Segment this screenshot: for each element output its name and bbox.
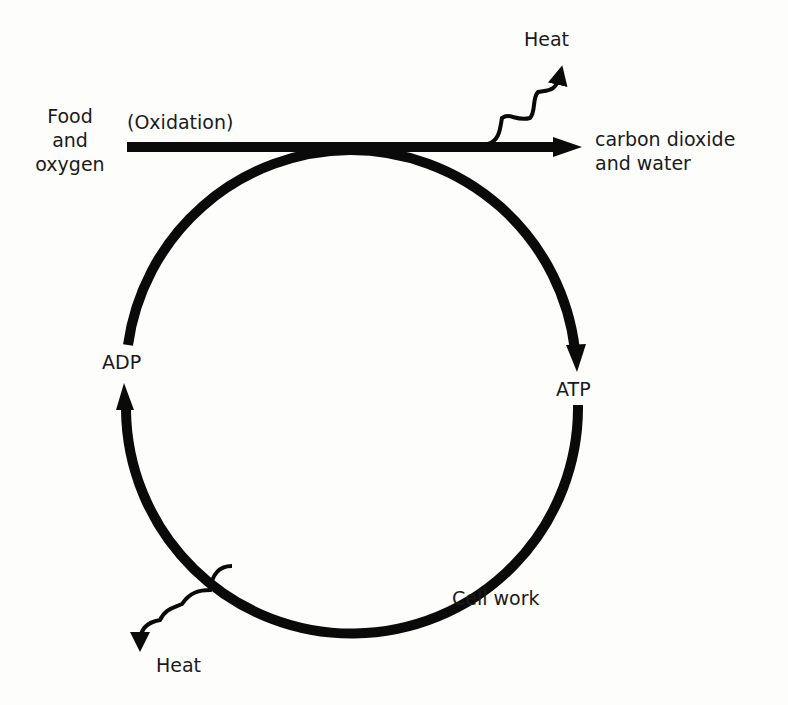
- products-label-line2: and water: [595, 151, 735, 175]
- cell-work-label: Cell work: [452, 586, 540, 610]
- oxidation-label: (Oxidation): [127, 110, 233, 134]
- cycle-circle: [116, 150, 586, 634]
- heat-squiggle-top: [488, 75, 560, 144]
- atp-arrowhead-icon: [566, 344, 586, 372]
- food-label-line2: and: [30, 128, 110, 152]
- heat-bottom-label: Heat: [156, 653, 201, 677]
- food-label-line3: oxygen: [30, 152, 110, 176]
- adp-label: ADP: [102, 350, 141, 374]
- heat-squiggle-bottom: [140, 566, 232, 642]
- adp-arrowhead-icon: [116, 383, 134, 410]
- heat-top-label: Heat: [524, 27, 569, 51]
- products-label-line1: carbon dioxide: [595, 127, 735, 151]
- food-label-line1: Food: [30, 104, 110, 128]
- products-label: carbon dioxide and water: [595, 127, 735, 175]
- atp-cycle-diagram: Food and oxygen (Oxidation) Heat carbon …: [0, 0, 788, 705]
- atp-label: ATP: [556, 377, 591, 401]
- food-oxygen-label: Food and oxygen: [30, 104, 110, 176]
